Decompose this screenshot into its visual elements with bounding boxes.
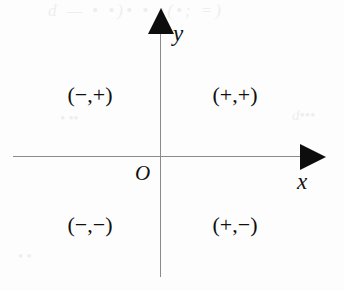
scan-artifact-bottom: • • (18, 250, 31, 264)
quadrant-3-sign-label: (−,−) (45, 214, 135, 236)
y-axis-arrow-up-icon (148, 8, 174, 34)
origin-label: O (135, 163, 150, 184)
x-axis-arrow-right-icon (300, 144, 326, 170)
y-axis-label: y (173, 22, 183, 45)
quadrant-4-sign-label: (+,−) (190, 214, 280, 236)
coordinate-plane-figure: d — • •)• • •(•; =) d••• • •• • • y x O … (0, 0, 344, 291)
x-axis-label: x (297, 170, 307, 193)
quadrant-1-sign-label: (+,+) (190, 84, 280, 106)
x-axis-line (13, 156, 313, 157)
scan-artifact-middle: • •• (60, 112, 78, 126)
scan-artifact-top: d — • •)• • •(•; =) (48, 2, 224, 19)
scan-artifact-right: d••• (292, 108, 315, 123)
quadrant-2-sign-label: (−,+) (45, 84, 135, 106)
y-axis-line (160, 24, 161, 277)
